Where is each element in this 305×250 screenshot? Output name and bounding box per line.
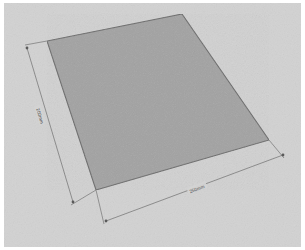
width-arrow-start — [105, 220, 108, 223]
height-arrow-start — [26, 47, 29, 50]
technical-drawing-svg: 200mm 250mm — [0, 0, 305, 250]
drawing-canvas: 200mm 250mm — [0, 0, 305, 250]
height-arrow-end — [72, 201, 75, 204]
width-arrow-end — [282, 154, 285, 157]
